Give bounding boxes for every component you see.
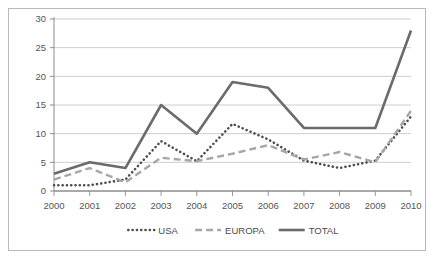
x-tick-label: 2005 [222,200,243,211]
y-tick-label: 30 [35,13,46,24]
line-chart-plot: 051015202530 200020012002200320042005200… [9,9,427,252]
x-tick-label: 2000 [43,200,64,211]
x-tick-label: 2001 [79,200,100,211]
y-tick-label: 25 [35,42,46,53]
x-tick-label: 2008 [329,200,350,211]
x-tick-label: 2007 [293,200,314,211]
x-tick-label: 2003 [151,200,172,211]
chart-figure: 051015202530 200020012002200320042005200… [8,8,426,251]
y-tick-label: 5 [41,157,46,168]
legend-label-total: TOTAL [309,225,339,236]
legend-label-usa: USA [158,225,178,236]
x-axis-tick-labels: 2000200120022003200420052006200720082009… [43,200,421,211]
x-tick-label: 2002 [115,200,136,211]
chart-legend: USAEUROPATOTAL [128,225,338,236]
y-tick-label: 0 [41,185,46,196]
series-line-total [54,30,411,173]
y-tick-label: 20 [35,71,46,82]
y-tick-label: 15 [35,99,46,110]
y-tick-label: 10 [35,128,46,139]
series-line-europa [54,111,411,183]
x-tick-label: 2004 [186,200,207,211]
x-tick-label: 2010 [400,200,421,211]
legend-label-europa: EUROPA [225,225,265,236]
y-axis-tick-labels: 051015202530 [35,13,46,196]
x-tick-label: 2006 [258,200,279,211]
y-axis-line [50,17,54,191]
x-tick-label: 2009 [365,200,386,211]
x-axis-tick-marks [54,191,411,196]
